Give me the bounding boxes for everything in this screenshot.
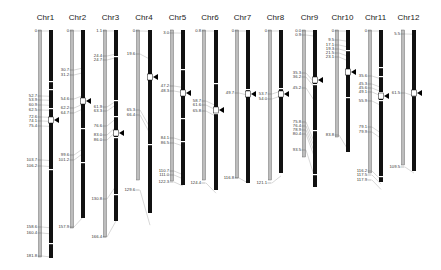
position-label: 35.6 xyxy=(359,74,367,79)
physical-chromosome-bar xyxy=(81,30,85,218)
position-label: 0 xyxy=(35,29,37,34)
centromere-box xyxy=(346,69,351,75)
chromosome-band xyxy=(379,100,383,101)
position-label: 160.4 xyxy=(27,231,37,236)
position-label: 24.7 xyxy=(94,58,102,63)
chromosome-band xyxy=(279,88,283,89)
physical-chromosome-bar xyxy=(379,30,383,182)
position-label: 0 xyxy=(133,29,135,34)
physical-chromosome-bar xyxy=(181,30,185,185)
chromosome-band xyxy=(379,176,383,177)
chromosome-band xyxy=(246,89,250,90)
position-label: 79.9 xyxy=(359,130,367,135)
arrowhead-marker-icon xyxy=(86,98,91,104)
chromosome-band xyxy=(114,56,118,57)
genetic-map-bar xyxy=(303,30,306,157)
genetic-map-bar xyxy=(336,30,339,137)
genetic-map-bar xyxy=(269,30,272,180)
chromosome-map-canvas xyxy=(0,0,441,270)
position-label: 124.4 xyxy=(191,181,201,186)
position-label: 0 xyxy=(332,29,334,34)
centromere-box xyxy=(412,90,417,96)
position-label: 63.3 xyxy=(94,109,102,114)
position-label: 83.8 xyxy=(326,133,334,138)
centromere-box xyxy=(148,74,153,80)
position-label: 103.7 xyxy=(27,158,37,163)
genetic-map-bar xyxy=(236,30,239,178)
arrowhead-marker-icon xyxy=(351,69,356,75)
position-label: 86.5 xyxy=(161,141,169,146)
position-label: 157.9 xyxy=(59,225,69,230)
position-label: 19.6 xyxy=(127,52,135,57)
chromosome-band xyxy=(49,108,53,109)
position-label: 65.8 xyxy=(193,109,201,114)
arrowhead-marker-icon xyxy=(318,77,323,83)
position-label: 0 xyxy=(365,29,367,34)
position-label: 111.0 xyxy=(159,173,169,178)
position-label: 62.5 xyxy=(29,108,37,113)
centromere-box xyxy=(181,90,186,96)
arrowhead-marker-icon xyxy=(284,91,289,97)
physical-chromosome-bar xyxy=(313,30,317,187)
position-label: 61.6 xyxy=(193,103,201,108)
position-label: 55.9 xyxy=(359,99,367,104)
position-label: 129.6 xyxy=(125,188,135,193)
genetic-map-bar xyxy=(39,30,42,257)
genetic-map-bar xyxy=(137,30,140,180)
position-label: 109.5 xyxy=(390,165,400,170)
position-label: 23.1 xyxy=(326,55,334,60)
position-label: 0 xyxy=(265,29,267,34)
arrowhead-marker-icon xyxy=(251,91,256,97)
physical-chromosome-bar xyxy=(148,30,152,213)
chromosome-band xyxy=(313,174,317,175)
physical-chromosome-bar xyxy=(246,30,250,183)
centromere-box xyxy=(114,130,119,136)
position-label: 5.5 xyxy=(394,32,400,37)
chromosome-band xyxy=(114,116,118,117)
arrowhead-marker-icon xyxy=(119,130,124,136)
chromosome-band xyxy=(49,89,53,90)
genetic-map-bar xyxy=(369,30,372,173)
chromosome-band xyxy=(313,130,317,131)
chromosome-band xyxy=(81,128,85,129)
centromere-box xyxy=(279,91,284,97)
position-label: 0.8 xyxy=(195,29,201,34)
chromosome-band xyxy=(148,144,152,145)
chromosome-map-figure: Chr1052.753.960.962.572.674.175.4103.710… xyxy=(0,0,441,270)
genetic-map-bar xyxy=(104,30,107,237)
position-label: 45.2 xyxy=(293,86,301,91)
chromosome-band xyxy=(114,194,118,195)
position-label: 48.3 xyxy=(161,89,169,94)
physical-chromosome-bar xyxy=(279,30,283,173)
centromere-box xyxy=(214,107,219,113)
chromosome-band xyxy=(49,81,53,82)
chromosome-band xyxy=(346,50,350,51)
position-label: 158.6 xyxy=(27,225,37,230)
centromere-box xyxy=(313,77,318,83)
position-label: 101.2 xyxy=(59,158,69,163)
position-label: 130.8 xyxy=(92,197,102,202)
position-label: 66.4 xyxy=(127,113,135,118)
centromere-box xyxy=(246,91,251,97)
centromere-box xyxy=(81,98,86,104)
arrowhead-marker-icon xyxy=(186,90,191,96)
position-label: 75.4 xyxy=(29,124,37,129)
arrowhead-marker-icon xyxy=(153,74,158,80)
physical-chromosome-bar xyxy=(346,30,350,152)
chromosome-band xyxy=(379,67,383,68)
position-label: 86.0 xyxy=(94,138,102,143)
position-label: 3.0 xyxy=(163,31,169,36)
chromosome-band xyxy=(181,69,185,70)
chromosome-band xyxy=(114,100,118,101)
position-label: 61.5 xyxy=(392,91,400,96)
chromosome-band xyxy=(181,141,185,142)
chromosome-band xyxy=(81,162,85,163)
position-label: 181.8 xyxy=(27,254,37,259)
genetic-map-bar xyxy=(171,30,174,181)
position-label: 54.6 xyxy=(61,97,69,102)
position-label: 166.4 xyxy=(92,235,102,240)
genetic-map-bar xyxy=(71,30,74,228)
position-label: 116.8 xyxy=(224,176,234,181)
arrowhead-marker-icon xyxy=(54,117,59,123)
arrowhead-marker-icon xyxy=(417,90,422,96)
